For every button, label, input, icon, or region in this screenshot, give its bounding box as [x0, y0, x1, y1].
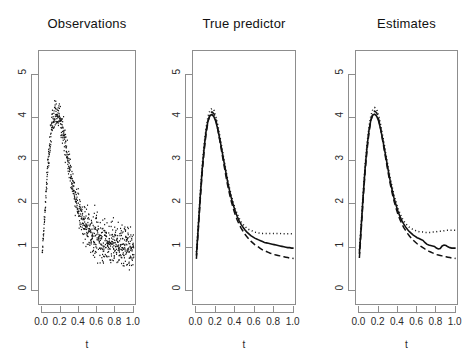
- plot-area-observations: [38, 50, 136, 305]
- y-axis-line-estimates: [348, 74, 349, 290]
- x-tick-observations-0: [41, 306, 42, 313]
- x-tick-estimates-3: [416, 306, 417, 313]
- y-tick-label-observations-1: 1: [18, 242, 28, 248]
- y-tick-estimates-1: [348, 247, 355, 248]
- y-tick-label-estimates-3: 3: [335, 155, 345, 161]
- x-tick-true-predictor-3: [254, 306, 255, 313]
- y-tick-label-true-predictor-3: 3: [172, 155, 182, 161]
- data-layer-true-predictor: [193, 51, 297, 306]
- figure-root: Observations0123450.00.20.40.60.81.0tTru…: [0, 0, 472, 364]
- y-tick-label-observations-2: 2: [18, 198, 28, 204]
- y-tick-label-observations-4: 4: [18, 112, 28, 118]
- y-tick-true-predictor-5: [185, 74, 192, 75]
- x-tick-observations-3: [96, 306, 97, 313]
- x-axis-label-estimates: t: [317, 339, 472, 350]
- x-axis-label-observations: t: [0, 339, 174, 350]
- y-tick-label-true-predictor-2: 2: [172, 198, 182, 204]
- y-tick-observations-4: [31, 117, 38, 118]
- y-tick-estimates-4: [348, 117, 355, 118]
- y-axis-line-true-predictor: [185, 74, 186, 290]
- panel-estimates: Estimates0123450.00.20.40.60.81.0t: [317, 0, 472, 364]
- x-axis-line-estimates: [358, 312, 454, 313]
- y-tick-label-estimates-2: 2: [335, 198, 345, 204]
- y-tick-label-observations-5: 5: [18, 69, 28, 75]
- plot-area-true-predictor: [192, 50, 296, 305]
- x-tick-label-estimates-5: 1.0: [442, 316, 468, 327]
- y-tick-label-estimates-1: 1: [335, 242, 345, 248]
- x-tick-observations-5: [133, 306, 134, 313]
- y-tick-label-true-predictor-1: 1: [172, 242, 182, 248]
- x-tick-true-predictor-5: [293, 306, 294, 313]
- y-tick-true-predictor-0: [185, 290, 192, 291]
- y-tick-observations-2: [31, 203, 38, 204]
- y-tick-label-observations-3: 3: [18, 155, 28, 161]
- y-tick-label-estimates-4: 4: [335, 112, 345, 118]
- y-tick-observations-3: [31, 160, 38, 161]
- x-tick-true-predictor-0: [195, 306, 196, 313]
- plot-area-estimates: [355, 50, 458, 305]
- y-tick-true-predictor-1: [185, 247, 192, 248]
- y-tick-observations-5: [31, 74, 38, 75]
- y-tick-observations-0: [31, 290, 38, 291]
- x-axis-line-true-predictor: [195, 312, 292, 313]
- y-tick-true-predictor-3: [185, 160, 192, 161]
- x-tick-label-observations-5: 1.0: [120, 316, 146, 327]
- x-axis-label-true-predictor: t: [154, 339, 334, 350]
- y-tick-estimates-0: [348, 290, 355, 291]
- x-tick-estimates-2: [397, 306, 398, 313]
- y-tick-label-observations-0: 0: [18, 285, 28, 291]
- x-tick-estimates-1: [378, 306, 379, 313]
- x-tick-true-predictor-4: [273, 306, 274, 313]
- y-tick-label-true-predictor-0: 0: [172, 285, 182, 291]
- data-layer-estimates: [356, 51, 459, 306]
- x-tick-estimates-5: [455, 306, 456, 313]
- y-tick-estimates-3: [348, 160, 355, 161]
- panel-title-estimates: Estimates: [317, 16, 472, 31]
- x-tick-observations-4: [114, 306, 115, 313]
- y-tick-label-estimates-0: 0: [335, 285, 345, 291]
- y-tick-label-estimates-5: 5: [335, 69, 345, 75]
- x-tick-estimates-0: [358, 306, 359, 313]
- series-true-predictor-dashed: [196, 112, 293, 259]
- y-tick-estimates-5: [348, 74, 355, 75]
- x-tick-label-true-predictor-5: 1.0: [280, 316, 306, 327]
- y-tick-true-predictor-4: [185, 117, 192, 118]
- y-tick-label-true-predictor-4: 4: [172, 112, 182, 118]
- y-tick-label-true-predictor-5: 5: [172, 69, 182, 75]
- panel-observations: Observations0123450.00.20.40.60.81.0t: [0, 0, 174, 364]
- x-axis-line-observations: [41, 312, 133, 313]
- x-tick-estimates-4: [435, 306, 436, 313]
- y-tick-observations-1: [31, 247, 38, 248]
- x-tick-true-predictor-1: [215, 306, 216, 313]
- data-layer-observations: [39, 51, 137, 306]
- panel-title-observations: Observations: [0, 16, 174, 31]
- observation-points: [42, 100, 135, 270]
- x-tick-true-predictor-2: [234, 306, 235, 313]
- series-estimates-solid: [359, 114, 455, 254]
- panel-title-true-predictor: True predictor: [154, 16, 334, 31]
- y-axis-line-observations: [31, 74, 32, 290]
- panel-true-predictor: True predictor0123450.00.20.40.60.81.0t: [154, 0, 334, 364]
- x-tick-observations-2: [78, 306, 79, 313]
- y-tick-true-predictor-2: [185, 203, 192, 204]
- y-tick-estimates-2: [348, 203, 355, 204]
- series-estimates-dashed: [359, 111, 455, 258]
- x-tick-observations-1: [60, 306, 61, 313]
